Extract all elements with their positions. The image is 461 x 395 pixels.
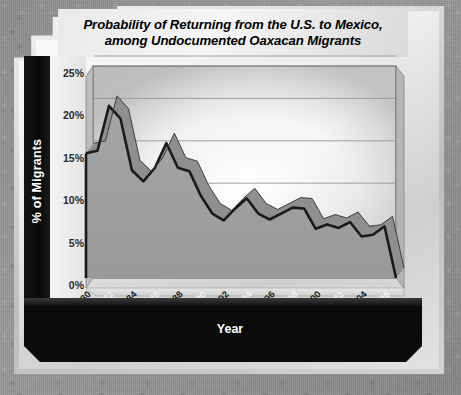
x-axis-title: Year [150,322,310,336]
base-slab-top [24,298,422,306]
chart-figure: Probability of Returning from the U.S. t… [0,0,461,395]
